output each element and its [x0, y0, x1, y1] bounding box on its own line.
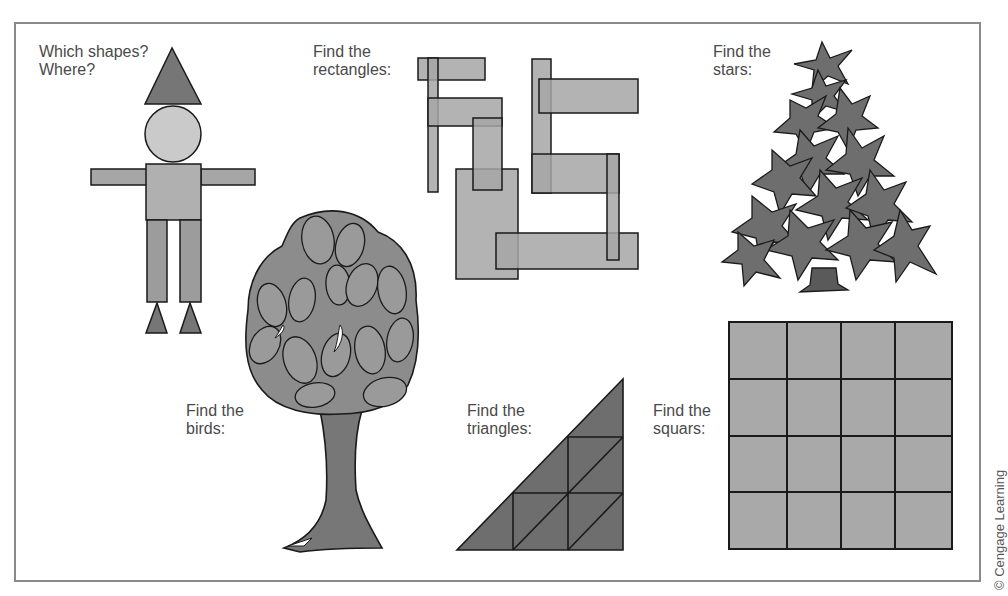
- tree-trunk: [800, 268, 848, 292]
- prompt-line: Which shapes?: [39, 43, 148, 61]
- rectangle: [532, 154, 619, 193]
- shape-person-figure: [91, 48, 255, 333]
- illustration-canvas: [0, 0, 1008, 596]
- left-arm-rect: [91, 169, 147, 185]
- square-grid: [729, 322, 952, 549]
- prompt-line: squars:: [653, 420, 711, 438]
- prompt-line: Where?: [39, 61, 148, 79]
- rectangle: [473, 118, 502, 190]
- prompt-line: Find the: [313, 43, 391, 61]
- prompt-which-shapes: Which shapes? Where?: [39, 43, 148, 79]
- prompt-line: birds:: [186, 420, 244, 438]
- prompt-line: rectangles:: [313, 61, 391, 79]
- prompt-line: Find the: [467, 402, 532, 420]
- tree-trunk: [284, 410, 382, 552]
- right-arm-rect: [201, 169, 255, 185]
- prompt-triangles: Find the triangles:: [467, 402, 532, 438]
- prompt-line: Find the: [186, 402, 244, 420]
- prompt-squares: Find the squars:: [653, 402, 711, 438]
- hat-triangle: [145, 48, 201, 104]
- left-leg-rect: [147, 220, 167, 302]
- body-square: [146, 164, 201, 220]
- left-foot-triangle: [146, 303, 167, 333]
- rectangle: [607, 154, 619, 260]
- right-foot-triangle: [180, 303, 201, 333]
- bird-tree: [243, 211, 419, 552]
- rectangle: [539, 79, 638, 113]
- copyright-credit: © Cengage Learning: [992, 470, 1007, 590]
- prompt-line: Find the: [653, 402, 711, 420]
- prompt-stars: Find the stars:: [713, 43, 771, 79]
- head-circle: [145, 106, 201, 162]
- prompt-rectangles: Find the rectangles:: [313, 43, 391, 79]
- right-leg-rect: [180, 220, 201, 302]
- prompt-line: stars:: [713, 61, 771, 79]
- prompt-line: Find the: [713, 43, 771, 61]
- prompt-line: triangles:: [467, 420, 532, 438]
- prompt-birds: Find the birds:: [186, 402, 244, 438]
- star-tree: [722, 42, 936, 292]
- overlapping-rectangles: [418, 58, 638, 279]
